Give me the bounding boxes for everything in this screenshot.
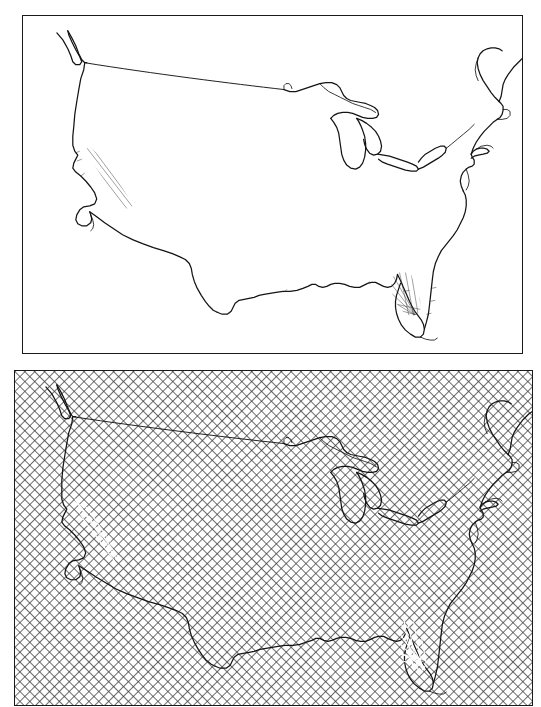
crosshatched-map-svg bbox=[15, 371, 532, 705]
crosshatched-map-panel bbox=[14, 370, 533, 706]
puget-sound-inlet bbox=[68, 31, 87, 63]
southwest-border-line bbox=[90, 212, 217, 312]
outline-map-svg bbox=[23, 16, 522, 353]
lake-erie-outline bbox=[378, 154, 419, 171]
northeast-border-line bbox=[477, 48, 502, 102]
delmarva-peninsula bbox=[466, 169, 469, 190]
california-hatch-fan bbox=[81, 143, 135, 213]
lake-superior-outline bbox=[284, 83, 379, 119]
florida-hatch-fan bbox=[388, 272, 426, 336]
st-lawrence-river bbox=[446, 124, 474, 148]
coastal-tick-marks bbox=[75, 151, 437, 314]
southeast-atlantic-coast bbox=[424, 191, 466, 329]
long-island-coast bbox=[471, 148, 489, 158]
minnesota-border bbox=[284, 84, 292, 90]
pacific-northwest-coast bbox=[57, 31, 82, 65]
lake-michigan-outline bbox=[331, 118, 366, 169]
national-outline-group bbox=[57, 31, 522, 340]
gulf-coast-line bbox=[217, 274, 397, 314]
west-coast-line bbox=[73, 63, 97, 226]
crosshatch-fill bbox=[15, 371, 532, 705]
florida-keys bbox=[420, 337, 437, 340]
lake-superior-north-shore bbox=[320, 84, 376, 113]
figure-container bbox=[0, 0, 541, 707]
maine-coast bbox=[499, 59, 522, 102]
outline-map-panel bbox=[22, 15, 523, 354]
lake-ontario-outline bbox=[418, 146, 446, 169]
new-england-coast bbox=[471, 101, 503, 154]
canada-border-line bbox=[85, 63, 284, 90]
